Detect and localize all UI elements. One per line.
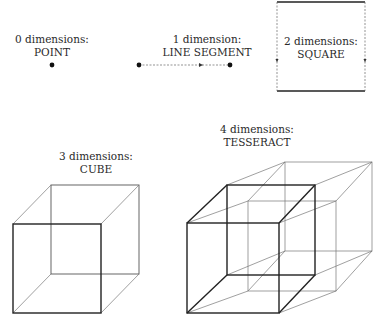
line-name: LINE SEGMENT (162, 46, 251, 58)
arrow-right-icon (199, 63, 203, 67)
square-name: SQUARE (297, 48, 344, 60)
tesseract-title: 4 dimensions: (220, 123, 294, 135)
point-name: POINT (34, 46, 70, 58)
cube-edge (13, 185, 51, 224)
point-dot-icon (50, 63, 55, 68)
panel-cube: 3 dimensions: CUBE (13, 150, 139, 313)
line-start-dot-icon (137, 63, 142, 68)
cube-name: CUBE (80, 163, 112, 175)
tesseract-second-cube (248, 162, 372, 291)
panel-point: 0 dimensions: POINT (15, 33, 89, 67)
point-title: 0 dimensions: (15, 33, 89, 45)
panel-square: 2 dimensions: SQUARE (276, 2, 367, 91)
cube-edge (101, 274, 139, 313)
tesseract-name: TESSERACT (223, 136, 290, 148)
cube-edge (13, 274, 51, 313)
dimensions-diagram: 0 dimensions: POINT 1 dimension: LINE SE… (0, 0, 380, 327)
square-title: 2 dimensions: (284, 35, 358, 47)
cube-edge (101, 185, 139, 224)
line-end-dot-icon (228, 63, 233, 68)
cube-title: 3 dimensions: (59, 150, 133, 162)
tesseract-first-cube (187, 185, 315, 313)
panel-line-segment: 1 dimension: LINE SEGMENT (137, 33, 252, 67)
arrow-down-icon (364, 59, 367, 63)
arrow-down-icon (276, 59, 279, 63)
line-title: 1 dimension: (173, 33, 241, 45)
panel-tesseract: 4 dimensions: TESSERACT (187, 123, 372, 313)
